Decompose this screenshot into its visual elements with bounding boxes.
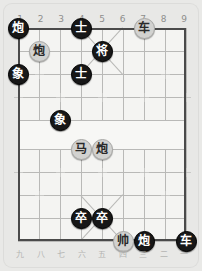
elephant-black-c1r2[interactable]: 象 xyxy=(8,64,29,85)
piece-glyph: 将 xyxy=(96,45,108,57)
piece-glyph: 车 xyxy=(180,235,192,247)
advisor-black-c4r2[interactable]: 士 xyxy=(71,64,92,85)
piece-glyph: 卒 xyxy=(75,212,87,224)
cannon-gray-c5r5[interactable]: 炮 xyxy=(92,139,113,160)
piece-glyph: 炮 xyxy=(96,143,108,155)
general-black-c5r1[interactable]: 将 xyxy=(92,41,113,62)
marshal-gray-c6r9[interactable]: 帅 xyxy=(113,231,134,252)
piece-glyph: 象 xyxy=(12,68,24,80)
piece-glyph: 炮 xyxy=(12,22,24,34)
piece-glyph: 卒 xyxy=(96,212,108,224)
board-file-line-8 xyxy=(186,28,187,241)
chariot-gray-c7r0[interactable]: 车 xyxy=(134,18,155,39)
piece-glyph: 士 xyxy=(75,22,87,34)
piece-glyph: 马 xyxy=(75,143,87,155)
piece-glyph: 象 xyxy=(54,114,66,126)
piece-glyph: 帅 xyxy=(117,235,129,247)
cannon-black-c7r9[interactable]: 炮 xyxy=(134,231,155,252)
piece-glyph: 士 xyxy=(75,68,87,80)
pawn-black-c4r8[interactable]: 卒 xyxy=(71,208,92,229)
cannon-gray-c2r1[interactable]: 炮 xyxy=(29,41,50,62)
cannon-black-c1r0[interactable]: 炮 xyxy=(8,18,29,39)
xiangqi-screenshot: 123456789 炮士车炮将象士象马炮卒卒帅炮车 九八七六五四三二一 xyxy=(0,0,202,271)
piece-glyph: 炮 xyxy=(138,235,150,247)
elephant-black-c3r4[interactable]: 象 xyxy=(50,110,71,131)
board-rank-line-9 xyxy=(18,241,186,242)
xiangqi-board[interactable]: 炮士车炮将象士象马炮卒卒帅炮车 xyxy=(18,28,186,241)
piece-glyph: 炮 xyxy=(33,45,45,57)
advisor-black-c4r0[interactable]: 士 xyxy=(71,18,92,39)
chariot-black-c9r9[interactable]: 车 xyxy=(176,231,197,252)
pawn-black-c5r8[interactable]: 卒 xyxy=(92,208,113,229)
horse-gray-c4r5[interactable]: 马 xyxy=(71,139,92,160)
piece-glyph: 车 xyxy=(138,22,150,34)
